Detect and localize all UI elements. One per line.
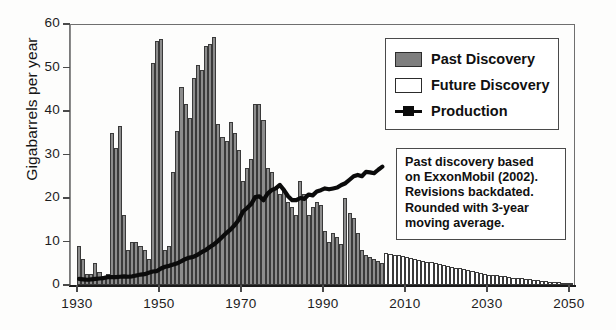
y-tick-label: 60 <box>20 15 60 31</box>
y-tick-label-text: 60 <box>26 15 60 30</box>
y-tick-mark <box>63 241 70 243</box>
note-line: Past discovery based <box>405 155 565 170</box>
legend-item-production: Production <box>395 98 558 124</box>
y-tick-label: 10 <box>20 233 60 249</box>
y-tick-label-text: 20 <box>26 189 60 204</box>
annotation-note-box: Past discovery based on ExxonMobil (2002… <box>396 148 566 240</box>
y-tick-label: 40 <box>20 102 60 118</box>
y-tick-label-text: 10 <box>26 233 60 248</box>
legend-label-past-discovery: Past Discovery <box>431 51 535 67</box>
legend-label-production: Production <box>431 103 508 119</box>
y-tick-mark <box>63 197 70 199</box>
x-tick-mark <box>322 285 324 292</box>
x-tick-label-text: 1970 <box>211 296 271 311</box>
x-tick-label-text: 1930 <box>47 296 107 311</box>
y-tick-label: 50 <box>20 59 60 75</box>
legend-item-future-discovery: Future Discovery <box>395 72 558 98</box>
y-tick-label: 0 <box>20 276 60 292</box>
future-discovery-swatch-icon <box>395 78 422 93</box>
y-tick-label-text: 40 <box>26 102 60 117</box>
y-tick-mark <box>63 284 70 286</box>
note-line: on ExxonMobil (2002). <box>405 170 565 185</box>
x-tick-mark <box>158 285 160 292</box>
x-tick-mark <box>404 285 406 292</box>
legend-item-past-discovery: Past Discovery <box>395 46 558 72</box>
note-line: moving average. <box>405 216 565 231</box>
x-tick-label-text: 1990 <box>293 296 353 311</box>
y-tick-mark <box>63 67 70 69</box>
x-tick-label-text: 1950 <box>129 296 189 311</box>
x-tick-mark <box>240 285 242 292</box>
chart-root: Gigabarrels per year 0102030405060 19301… <box>0 0 616 330</box>
x-tick-label-text: 2010 <box>375 296 435 311</box>
y-tick-mark <box>63 23 70 25</box>
y-tick-mark <box>63 154 70 156</box>
y-tick-label: 20 <box>20 189 60 205</box>
note-line: Revisions backdated. <box>405 185 565 200</box>
y-tick-label: 30 <box>20 146 60 162</box>
y-tick-mark <box>63 110 70 112</box>
chart-legend: Past Discovery Future Discovery Producti… <box>385 38 559 130</box>
x-tick-label-text: 2050 <box>539 296 599 311</box>
legend-label-future-discovery: Future Discovery <box>431 77 549 93</box>
note-line: Rounded with 3-year <box>405 201 565 216</box>
production-line-swatch-icon <box>395 104 422 119</box>
y-tick-label-text: 50 <box>26 59 60 74</box>
x-tick-mark <box>486 285 488 292</box>
x-tick-label-text: 2030 <box>457 296 517 311</box>
x-tick-mark <box>76 285 78 292</box>
past-discovery-swatch-icon <box>395 52 422 67</box>
y-tick-label-text: 30 <box>26 146 60 161</box>
x-tick-mark <box>568 285 570 292</box>
y-tick-label-text: 0 <box>26 276 60 291</box>
